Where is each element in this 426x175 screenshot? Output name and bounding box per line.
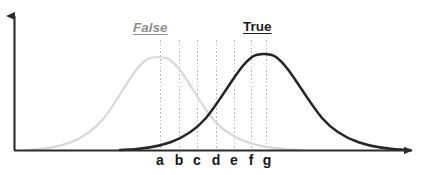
true-distribution-curve (120, 54, 410, 150)
chart-canvas (0, 0, 426, 175)
false-distribution-curve (26, 57, 302, 150)
normal-distribution-chart: False True a b c d e f g (0, 0, 426, 175)
